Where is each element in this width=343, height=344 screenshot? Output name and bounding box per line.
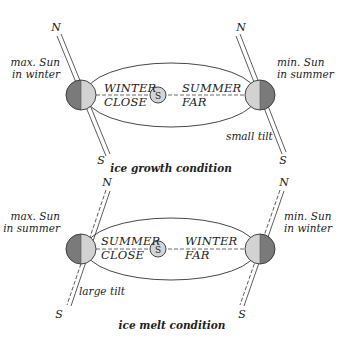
panel-ice-melt: S N S max. Sun in summer SUMMER CLOSE la…	[3, 176, 333, 331]
north-label: N	[101, 176, 112, 189]
south-label: S	[238, 308, 246, 321]
left-planet	[66, 234, 96, 264]
right-planet	[245, 234, 275, 264]
panel-ice-growth: S N S max. Sun in winter WINTER CLOSE	[10, 21, 334, 174]
right-label-line2: in winter	[284, 222, 333, 234]
left-label-line1: max. Sun	[10, 210, 60, 222]
orbit-label-season: WINTER	[104, 81, 156, 95]
south-label: S	[97, 154, 105, 167]
north-label: N	[50, 21, 61, 34]
tilt-note: large tilt	[79, 285, 126, 297]
right-label-line1: min. Sun	[284, 210, 332, 222]
left-planet	[66, 80, 96, 110]
left-label-line1: max. Sun	[10, 56, 60, 68]
north-label: N	[278, 176, 289, 189]
orbit-label-distance: CLOSE	[101, 248, 145, 262]
south-label: S	[279, 154, 287, 167]
orbit-diagram: S N S max. Sun in winter WINTER CLOSE	[0, 0, 343, 344]
orbit-label-distance: FAR	[184, 248, 210, 262]
right-label-line1: min. Sun	[277, 56, 325, 68]
north-label: N	[235, 21, 246, 34]
tilt-note: small tilt	[226, 130, 274, 142]
orbit-label-season: WINTER	[185, 234, 237, 248]
panel-caption: ice melt condition	[119, 319, 226, 331]
orbit-label-distance: FAR	[181, 95, 207, 109]
left-label-line2: in summer	[3, 222, 61, 234]
right-label-line2: in summer	[277, 68, 335, 80]
orbit-label-season: SUMMER	[101, 234, 161, 248]
right-planet	[245, 80, 275, 110]
left-label-line2: in winter	[12, 68, 61, 80]
south-label: S	[55, 308, 63, 321]
orbit-label-distance: CLOSE	[104, 95, 148, 109]
panel-caption: ice growth condition	[110, 162, 232, 174]
orbit-label-season: SUMMER	[182, 81, 242, 95]
